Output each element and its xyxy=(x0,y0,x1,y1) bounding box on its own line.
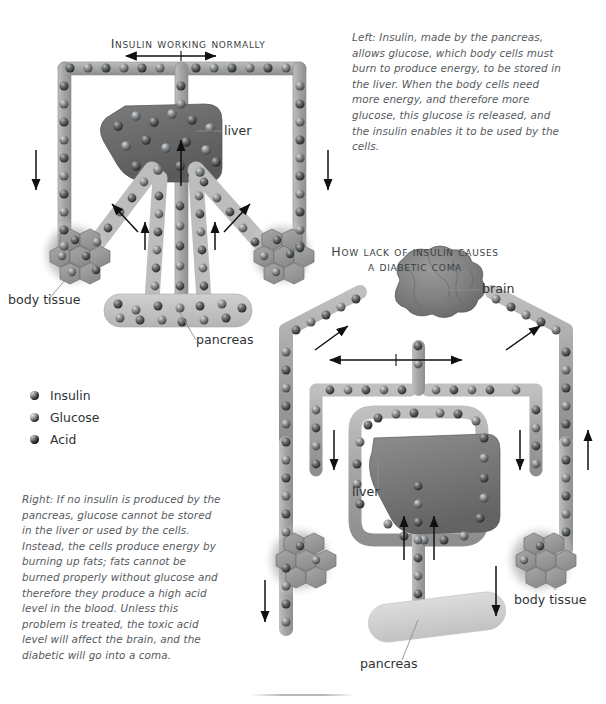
caption-left-text: Left: Insulin, made by the pancreas, all… xyxy=(352,30,562,155)
legend-label-glucose: Glucose xyxy=(50,410,99,425)
legend-item-insulin: Insulin xyxy=(30,386,99,405)
normal-body-tissue-left xyxy=(38,218,110,290)
legend-item-glucose: Glucose xyxy=(30,408,99,427)
label-pancreas-coma: pancreas xyxy=(360,656,418,671)
legend-label-insulin: Insulin xyxy=(50,388,91,403)
label-brain-coma: brain xyxy=(482,281,514,296)
insulin-dot-icon xyxy=(30,391,39,400)
diagram-coma-title-line2: a diabetic coma xyxy=(300,259,530,274)
footer-rule xyxy=(250,694,355,696)
diagram-coma-title-line1: How lack of insulin causes xyxy=(300,244,530,259)
label-body-tissue-normal: body tissue xyxy=(8,292,80,307)
glucose-dot-icon xyxy=(30,413,39,422)
caption-right-text: Right: If no insulin is produced by the … xyxy=(22,492,222,664)
label-body-tissue-coma: body tissue xyxy=(514,592,586,607)
diagram-coma-title: How lack of insulin causes a diabetic co… xyxy=(300,244,530,274)
legend-item-acid: Acid xyxy=(30,430,99,449)
diagram-page: Insulin working normally liver body tiss… xyxy=(0,0,606,704)
coma-body-tissue-left xyxy=(262,522,338,598)
diagram-normal-title: Insulin working normally xyxy=(58,36,318,51)
coma-pancreas-shape xyxy=(366,590,508,645)
legend: Insulin Glucose Acid xyxy=(30,386,99,452)
label-liver-normal: liver xyxy=(224,123,251,138)
label-pancreas-normal: pancreas xyxy=(196,332,254,347)
legend-label-acid: Acid xyxy=(50,432,76,447)
label-liver-coma: liver xyxy=(352,484,379,499)
acid-dot-icon xyxy=(30,435,39,444)
